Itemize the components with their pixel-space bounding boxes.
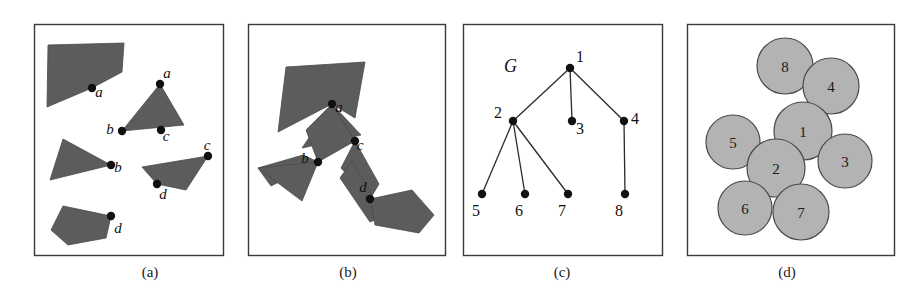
point-label-a-a: a xyxy=(95,84,103,100)
panel-caption-d: (d) xyxy=(778,264,796,281)
graph-edge-1-4 xyxy=(570,68,624,121)
polygon-a-top-left xyxy=(47,43,124,107)
polygon-b-left-wedge xyxy=(258,162,318,201)
graph-node-3[interactable] xyxy=(568,117,576,125)
disc-label-4: 4 xyxy=(827,79,835,95)
disc-label-7: 7 xyxy=(797,205,805,221)
polygon-a-triangle-b xyxy=(50,139,111,180)
point-label-a-d: d xyxy=(159,186,167,202)
point-label-a-b2: b xyxy=(114,159,122,175)
graph-edge-2-5 xyxy=(482,121,513,194)
panel-caption-c: (c) xyxy=(554,264,571,281)
polygon-a-parallelogram-cd xyxy=(142,156,208,190)
panel-a: aabcbcdd(a) xyxy=(35,25,224,282)
disc-label-3: 3 xyxy=(841,154,849,170)
graph-node-label-2: 2 xyxy=(494,104,502,121)
point-label-a-b: b xyxy=(106,121,114,137)
graph-node-5[interactable] xyxy=(478,190,486,198)
graph-name-label: G xyxy=(504,56,517,76)
figure-container: aabcbcdd(a)abcd(b)G12345678(c)84153267(d… xyxy=(0,0,924,297)
panel-frame-c xyxy=(464,25,663,256)
point-label-b-c: c xyxy=(357,137,364,153)
contact-point-a-a2 xyxy=(156,80,164,88)
contact-point-b-d xyxy=(366,195,374,203)
graph-node-8[interactable] xyxy=(621,190,629,198)
graph-node-2[interactable] xyxy=(509,117,517,125)
graph-node-4[interactable] xyxy=(620,117,628,125)
panel-b: abcd(b) xyxy=(249,25,446,282)
graph-node-label-7: 7 xyxy=(558,202,566,219)
point-label-a-c2: c xyxy=(204,137,211,153)
graph-node-label-3: 3 xyxy=(576,120,584,137)
panel-caption-a: (a) xyxy=(142,264,159,281)
disc-label-5: 5 xyxy=(729,135,737,151)
disc-label-8: 8 xyxy=(781,59,789,75)
contact-point-a-d2 xyxy=(107,212,115,220)
graph-edge-1-2 xyxy=(513,68,570,121)
contact-point-a-c2 xyxy=(204,152,212,160)
graph-node-label-1: 1 xyxy=(576,48,584,65)
graph-edge-2-6 xyxy=(513,121,525,194)
contact-point-b-b xyxy=(314,158,322,166)
polygon-b-bottom-right xyxy=(370,190,434,233)
point-label-a-c: c xyxy=(163,128,170,144)
graph-node-7[interactable] xyxy=(564,190,572,198)
point-label-a-a2: a xyxy=(163,65,171,81)
graph-node-label-8: 8 xyxy=(615,202,623,219)
graph-edge-1-3 xyxy=(570,68,572,121)
polygon-a-triangle-abc xyxy=(122,84,184,131)
point-label-b-d: d xyxy=(359,179,367,195)
figure-svg: aabcbcdd(a)abcd(b)G12345678(c)84153267(d… xyxy=(0,0,924,297)
panel-caption-b: (b) xyxy=(339,264,357,281)
point-label-a-d2: d xyxy=(114,220,122,236)
graph-node-1[interactable] xyxy=(566,64,574,72)
graph-edge-2-7 xyxy=(513,121,568,194)
graph-edge-4-8 xyxy=(624,121,625,194)
disc-label-6: 6 xyxy=(741,201,749,217)
disc-label-1: 1 xyxy=(799,124,807,140)
graph-node-label-4: 4 xyxy=(631,110,639,127)
graph-node-label-5: 5 xyxy=(472,202,480,219)
panel-d: 84153267(d) xyxy=(688,25,895,282)
contact-point-a-b xyxy=(118,127,126,135)
panel-c: G12345678(c) xyxy=(464,25,663,282)
polygon-a-bottom-left xyxy=(51,206,111,245)
point-label-b-a: a xyxy=(335,99,343,115)
point-label-b-b: b xyxy=(301,150,309,166)
graph-node-6[interactable] xyxy=(521,190,529,198)
graph-node-label-6: 6 xyxy=(515,202,523,219)
disc-label-2: 2 xyxy=(772,161,780,177)
